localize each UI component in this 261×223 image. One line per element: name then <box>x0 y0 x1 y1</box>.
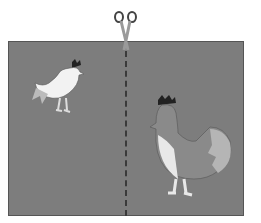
dashed-cut-line <box>125 41 127 216</box>
scissors-icon <box>113 10 139 54</box>
rooster-icon <box>30 58 85 116</box>
hen-icon <box>148 95 238 200</box>
